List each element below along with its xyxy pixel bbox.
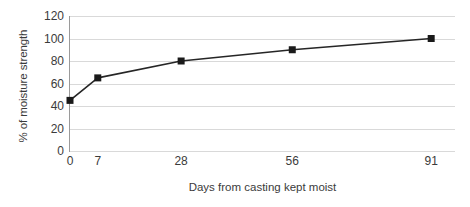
x-axis-title: Days from casting kept moist <box>70 180 455 194</box>
y-axis-tick-label: 60 <box>30 78 64 90</box>
series-line <box>70 39 431 101</box>
series-markers <box>67 35 435 104</box>
x-axis-tick-labels: 07285691 <box>70 154 455 170</box>
x-axis-tick-label: 28 <box>161 154 201 168</box>
y-axis-tick-labels: 020406080100120 <box>28 0 64 207</box>
x-axis-tick-label: 7 <box>78 154 118 168</box>
data-point-marker <box>94 74 101 81</box>
data-point-marker <box>67 97 74 104</box>
y-axis-tick-label: 20 <box>30 123 64 135</box>
data-point-marker <box>289 46 296 53</box>
line-chart-figure: % of moisture strength 020406080100120 0… <box>0 0 470 207</box>
y-axis-tick-label: 80 <box>30 55 64 67</box>
data-point-marker <box>178 58 185 65</box>
y-axis-tick-label: 40 <box>30 100 64 112</box>
plot-area <box>70 16 455 151</box>
data-point-marker <box>428 35 435 42</box>
data-series-layer <box>70 16 455 151</box>
gridline <box>70 151 455 152</box>
y-axis-tick-label: 100 <box>30 33 64 45</box>
x-axis-tick-label: 56 <box>272 154 312 168</box>
y-axis-tick-label: 120 <box>30 10 64 22</box>
x-axis-tick-label: 91 <box>411 154 451 168</box>
